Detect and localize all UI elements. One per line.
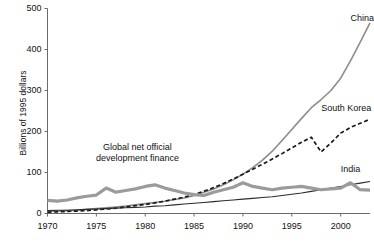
y-tick-label: 0 <box>0 209 42 218</box>
series-label-1: South Korea <box>321 103 371 113</box>
x-tick-label: 2000 <box>321 222 361 231</box>
x-tick-label: 1995 <box>272 222 312 231</box>
y-tick-label: 500 <box>0 4 42 13</box>
y-tick-label: 100 <box>0 168 42 177</box>
x-tick-label: 1975 <box>76 222 116 231</box>
series-label-2: India <box>341 164 361 174</box>
series-label-0: China <box>350 13 374 23</box>
series-line-1 <box>48 119 371 212</box>
y-tick-label: 300 <box>0 86 42 95</box>
series-line-3 <box>48 183 371 201</box>
series-line-0 <box>48 23 371 212</box>
y-tick-label: 400 <box>0 45 42 54</box>
y-tick-label: 200 <box>0 127 42 136</box>
x-tick-label: 1970 <box>28 222 68 231</box>
x-tick-label: 1990 <box>223 222 263 231</box>
x-tick-label: 1980 <box>125 222 165 231</box>
series-label-3: Global net official development finance <box>77 142 197 164</box>
x-tick-label: 1985 <box>174 222 214 231</box>
